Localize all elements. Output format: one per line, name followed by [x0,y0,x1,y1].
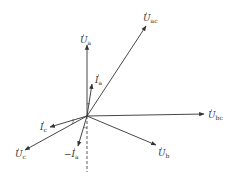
phasor-dot-icon [98,74,99,75]
phasor-label-uac: Uac [143,13,158,24]
phasor-dot-icon [161,147,162,148]
phasor-uc-arrow [25,116,87,150]
angle-mark [84,127,87,128]
phasor-label-ubc: Ubc [208,110,223,121]
phasor-dot-icon [43,121,44,122]
phasor-svg: UaUacIaUbcUbUcIc−Ia [0,0,233,180]
phasor-ia-arrow [87,84,92,116]
phasor-label-ub: Ub [158,148,170,159]
phasor-dot-icon [18,148,19,149]
phasor-label-ic: Ic [39,122,48,133]
phasor-dot-icon [211,109,212,110]
phasor-label-ia: Ia [94,75,103,86]
phasor-ubc-arrow [87,114,204,116]
phasor-uac-arrow [87,26,146,116]
phasor-label-uc: Uc [15,149,27,160]
phasor-dot-icon [146,12,147,13]
phasor-dot-icon [83,34,84,35]
phasor-label-ua: Ua [80,35,92,46]
phasor-diagram: UaUacIaUbcUbUcIc−Ia [0,0,233,180]
phasor-dot-icon [74,148,75,149]
phasor-ub-arrow [87,116,156,145]
phasor-label-neg-ia: −Ia [64,149,79,160]
phasor-ic-arrow [50,116,87,127]
